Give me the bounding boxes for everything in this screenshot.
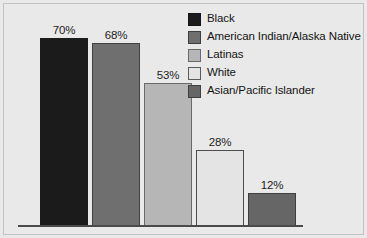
bar-white[interactable] — [196, 150, 244, 226]
bar-value-label: 12% — [261, 179, 283, 191]
legend-swatch-icon — [188, 67, 201, 80]
bar-black[interactable] — [40, 38, 88, 226]
legend-swatch-icon — [188, 85, 201, 98]
bar-value-label: 53% — [157, 69, 179, 81]
legend-item-white[interactable]: White — [188, 64, 367, 82]
bar-value-label: 28% — [209, 136, 231, 148]
bar-value-label: 68% — [105, 29, 127, 41]
legend-label: Black — [207, 13, 235, 25]
bar-asian-pacific-islander[interactable] — [248, 193, 296, 226]
chart-figure: 70% 68% 53% 28% 12% — [0, 0, 367, 238]
chart-legend: Black American Indian/Alaska Native Lati… — [188, 10, 367, 100]
bar-american-indian-alaska-native[interactable] — [92, 43, 140, 226]
legend-label: American Indian/Alaska Native — [207, 31, 361, 43]
bar-value-label: 70% — [53, 24, 75, 36]
legend-item-latinas[interactable]: Latinas — [188, 46, 367, 64]
legend-item-american-indian-alaska-native[interactable]: American Indian/Alaska Native — [188, 28, 367, 46]
x-axis-line — [18, 225, 303, 227]
legend-swatch-icon — [188, 49, 201, 62]
legend-item-black[interactable]: Black — [188, 10, 367, 28]
chart-frame: 70% 68% 53% 28% 12% — [3, 3, 364, 235]
legend-label: White — [207, 67, 236, 79]
legend-label: Asian/Pacific Islander — [207, 85, 315, 97]
legend-item-asian-pacific-islander[interactable]: Asian/Pacific Islander — [188, 82, 367, 100]
bar-latinas[interactable] — [144, 83, 192, 226]
legend-swatch-icon — [188, 31, 201, 44]
legend-label: Latinas — [207, 49, 243, 61]
legend-swatch-icon — [188, 13, 201, 26]
